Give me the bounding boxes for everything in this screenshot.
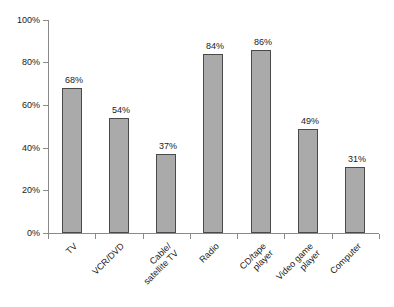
bar-chart: 100% 80% 60% 40% 20% 0% 68% 54% 37% 84% …	[0, 0, 394, 307]
y-axis-tick-label-40: 40%	[0, 144, 40, 153]
bar-value-tv: 68%	[46, 76, 102, 85]
bar-value-computer: 31%	[329, 155, 385, 164]
x-axis-tick-mark-6	[332, 234, 333, 239]
bar-computer	[345, 167, 365, 233]
bar-vcr-dvd	[109, 118, 129, 233]
bar-value-cd-tape-player: 86%	[235, 38, 291, 47]
x-axis-tick-mark-4	[237, 234, 238, 239]
plot-area	[48, 20, 378, 233]
x-axis-label-radio-line1: Radio	[197, 241, 221, 265]
x-axis-label-vcr-dvd-line1: VCR/DVD	[90, 241, 126, 277]
x-axis-tick-mark-2	[143, 234, 144, 239]
bar-radio	[203, 54, 223, 233]
y-axis-tick-label-0: 0%	[0, 229, 40, 238]
y-axis-tick-label-100: 100%	[0, 16, 40, 25]
y-axis-tick-label-80: 80%	[0, 58, 40, 67]
y-axis-tick-label-60: 60%	[0, 101, 40, 110]
bar-value-vcr-dvd: 54%	[93, 106, 149, 115]
x-axis-label-computer-line1: Computer	[328, 241, 363, 276]
x-axis-tick-mark-1	[95, 234, 96, 239]
x-axis-tick-mark-0	[48, 234, 49, 239]
x-axis-tick-mark-7	[379, 234, 380, 239]
y-axis-tick-label-20: 20%	[0, 186, 40, 195]
x-axis-label-tv-line1: TV	[64, 241, 79, 256]
bar-cable-satellite	[156, 154, 176, 233]
bar-value-cable-satellite: 37%	[140, 142, 196, 151]
bar-video-game-player	[298, 129, 318, 233]
bar-tv	[62, 88, 82, 233]
x-axis-tick-mark-5	[284, 234, 285, 239]
x-axis-tick-mark-3	[190, 234, 191, 239]
x-axis-line	[48, 233, 379, 234]
bar-cd-tape-player	[251, 50, 271, 233]
bar-value-video-game-player: 49%	[282, 117, 338, 126]
